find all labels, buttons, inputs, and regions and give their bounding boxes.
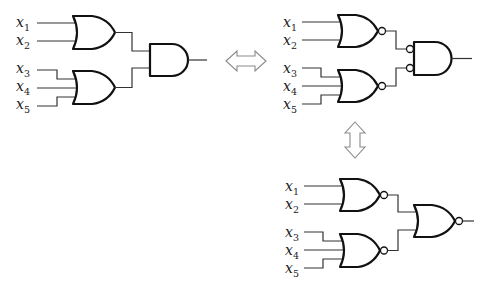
wire-x3 (304, 232, 344, 241)
wire-nor1-to-nor (388, 195, 418, 212)
input-label-x1: x1 (283, 14, 297, 33)
wire-nor2-to-nor (388, 230, 418, 251)
wire-x3 (37, 70, 77, 79)
wire-or2-to-and (115, 68, 150, 88)
wire-x5 (302, 95, 342, 104)
nor-gate-1-bubble (379, 28, 386, 35)
vertical-double-arrow-icon (345, 122, 365, 158)
input-label-x2: x2 (285, 196, 299, 215)
nor-gate-1 (340, 179, 380, 211)
and-gate-inverted-inputs (414, 42, 452, 75)
input-label-x3: x3 (16, 60, 30, 79)
input-label-x2: x2 (16, 32, 30, 51)
nor-gate-2-bubble (381, 247, 388, 254)
input-label-x3: x3 (283, 60, 297, 79)
horizontal-double-arrow-icon (226, 51, 266, 71)
input-label-x1: x1 (285, 178, 299, 197)
logic-circuit-diagram: x1 x2 x3 x4 x5 x1 x2 x3 x4 x5 (0, 0, 493, 289)
wire-x5 (304, 259, 344, 268)
wire-x5 (37, 97, 77, 106)
circuit-or-and: x1 x2 x3 x4 x5 (16, 14, 207, 115)
input-label-x4: x4 (16, 78, 30, 97)
output-nor-gate (414, 205, 455, 237)
and-gate (150, 44, 188, 76)
input-label-x5: x5 (285, 260, 299, 279)
wire-or1-to-and (115, 33, 150, 52)
circuit-nor-and-inverted: x1 x2 x3 x4 x5 (283, 14, 472, 115)
wire-nor2-to-and (386, 68, 408, 86)
nor-gate-2-bubble (379, 83, 386, 90)
or-gate-1 (73, 16, 115, 49)
input-label-x5: x5 (283, 96, 297, 115)
circuit-nor-nor: x1 x2 x3 x4 x5 (285, 178, 474, 279)
wire-nor1-to-and (386, 31, 408, 49)
input-label-x3: x3 (285, 224, 299, 243)
input-label-x1: x1 (16, 14, 30, 33)
input-label-x4: x4 (283, 78, 297, 97)
input-label-x4: x4 (285, 242, 299, 261)
and-input-bubble-1 (407, 46, 414, 53)
wire-x3 (302, 68, 342, 77)
input-label-x2: x2 (283, 32, 297, 51)
nor-gate-2 (340, 234, 380, 267)
and-input-bubble-2 (407, 65, 414, 72)
output-nor-gate-bubble (456, 218, 463, 225)
nor-gate-1 (338, 15, 378, 47)
input-label-x5: x5 (16, 96, 30, 115)
nor-gate-1-bubble (381, 192, 388, 199)
or-gate-2 (73, 71, 115, 104)
nor-gate-2 (338, 70, 378, 102)
